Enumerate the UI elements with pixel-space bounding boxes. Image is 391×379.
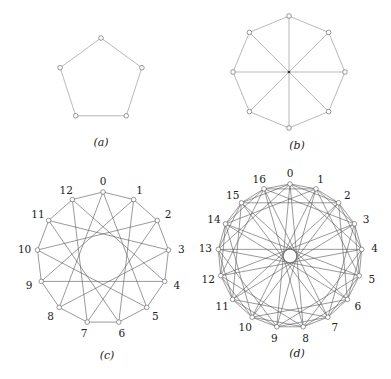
vertex-11 (230, 297, 235, 302)
vertex-2 (343, 70, 348, 75)
vertex-3 (166, 248, 171, 253)
vertex-1 (140, 65, 145, 70)
edge (277, 184, 290, 327)
vertex-4 (287, 126, 292, 131)
vertex-label: 11 (31, 208, 44, 220)
panel-a-pentagon-graph: (a) (58, 36, 144, 149)
vertex-1 (326, 30, 331, 35)
vertex-12 (70, 197, 75, 202)
vertex-label: 4 (174, 279, 181, 291)
edge (157, 221, 168, 251)
vertex-label: 6 (119, 327, 126, 339)
panel-c-circulant-13-graph: 0123456789101112(c) (18, 175, 185, 362)
vertex-13 (216, 247, 221, 252)
edge (72, 200, 164, 282)
edge (289, 112, 329, 128)
edge (264, 184, 290, 189)
panel-b-octagon-graph: (b) (231, 14, 348, 152)
edge (60, 38, 101, 68)
edge (290, 184, 303, 327)
edge (249, 16, 289, 32)
edge (37, 250, 146, 307)
edge (328, 299, 348, 317)
vertex-label: 0 (100, 175, 107, 187)
edge (72, 192, 103, 200)
vertex-label: 5 (368, 273, 375, 285)
edge (41, 200, 133, 282)
vertex-15 (239, 200, 244, 205)
vertex-8 (301, 324, 306, 329)
vertex-0 (101, 190, 106, 195)
edge (241, 184, 290, 203)
edge (226, 224, 360, 276)
vertex-4 (359, 247, 364, 252)
vertex-label: 12 (60, 184, 73, 196)
vertex-label: 16 (253, 173, 267, 185)
vertex-9 (274, 324, 279, 329)
vertex-label: 3 (178, 243, 185, 255)
edge (233, 203, 339, 300)
vertex-7 (326, 315, 331, 320)
panel-caption: (a) (93, 136, 108, 149)
vertex-label: 5 (152, 310, 159, 322)
edge (289, 16, 329, 32)
vertex-4 (162, 279, 167, 284)
vertex-10 (35, 248, 40, 253)
edge (329, 72, 345, 112)
vertex-label: 7 (81, 327, 88, 339)
edge (241, 203, 347, 300)
center-point (288, 71, 291, 74)
vertex-6 (345, 297, 350, 302)
edge (252, 203, 338, 317)
vertex-7 (247, 30, 252, 35)
vertex-2 (124, 113, 129, 118)
vertex-6 (116, 320, 121, 325)
edge (339, 203, 348, 300)
vertex-2 (336, 200, 341, 205)
vertex-5 (247, 109, 252, 114)
vertex-label: 15 (226, 189, 239, 201)
vertex-label: 2 (344, 189, 351, 201)
vertex-label: 3 (363, 213, 370, 225)
edge (37, 221, 48, 251)
edge (249, 112, 289, 128)
edge (290, 184, 316, 189)
vertex-label: 10 (239, 321, 252, 333)
edge (264, 189, 328, 317)
vertex-3 (326, 109, 331, 114)
panel-d-paley-17-graph: 012345678910111213141516(d) (199, 167, 379, 360)
edge (37, 250, 41, 281)
vertex-label: 10 (18, 243, 31, 255)
edge (252, 189, 316, 317)
edge (41, 281, 59, 307)
edge (290, 184, 362, 249)
edge (134, 200, 158, 221)
vertex-0 (287, 14, 292, 19)
vertex-label: 1 (317, 173, 324, 185)
panel-caption: (c) (100, 349, 115, 362)
vertex-label: 9 (271, 332, 278, 344)
edge (221, 224, 355, 276)
edge (119, 307, 147, 322)
vertex-5 (144, 305, 149, 310)
edge (101, 38, 142, 68)
vertex-9 (39, 279, 44, 284)
vertex-11 (46, 218, 51, 223)
edges (37, 192, 168, 322)
panel-caption: (b) (289, 139, 305, 152)
edge (290, 184, 339, 203)
vertex-12 (218, 273, 223, 278)
vertex-label: 12 (202, 273, 215, 285)
edges (218, 184, 361, 327)
vertex-3 (352, 222, 357, 227)
vertex-0 (288, 182, 293, 187)
edge (165, 250, 169, 281)
vertex-7 (85, 320, 90, 325)
edges (60, 38, 142, 116)
vertex-label: 11 (215, 300, 228, 312)
edge (126, 68, 142, 116)
vertex-label: 8 (302, 332, 309, 344)
edge (49, 221, 169, 251)
edge (59, 250, 168, 307)
vertex-label: 6 (354, 300, 361, 312)
